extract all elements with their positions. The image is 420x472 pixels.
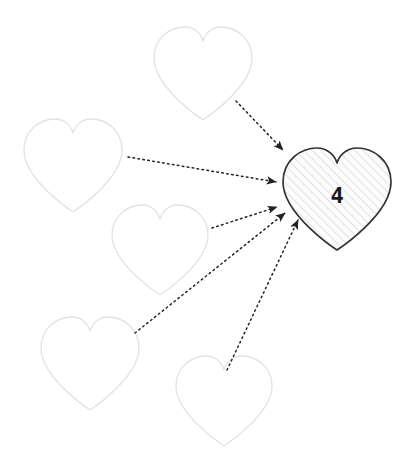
filled-heart[interactable]: 4	[283, 148, 391, 250]
arrow-from-upper-left[interactable]	[128, 157, 276, 182]
filled-heart-label: 4	[330, 183, 343, 208]
arrow-from-middle-left[interactable]	[212, 207, 277, 228]
heart-upper-left-shape	[24, 119, 122, 212]
heart-upper-left[interactable]	[24, 119, 122, 212]
arrow-from-bottom[interactable]	[227, 220, 298, 370]
heart-bottom[interactable]	[176, 356, 272, 446]
arrow-from-top[interactable]	[236, 101, 283, 150]
source-hearts-group	[24, 27, 272, 446]
heart-middle-left[interactable]	[112, 205, 208, 295]
heart-diagram-scene: 4	[0, 0, 420, 472]
heart-bottom-shape	[176, 356, 272, 446]
heart-lower-left[interactable]	[41, 317, 139, 410]
diagram-canvas: 4	[0, 0, 420, 472]
heart-lower-left-shape	[41, 317, 139, 410]
heart-middle-left-shape	[112, 205, 208, 295]
heart-top-shape	[154, 27, 252, 120]
heart-top[interactable]	[154, 27, 252, 120]
